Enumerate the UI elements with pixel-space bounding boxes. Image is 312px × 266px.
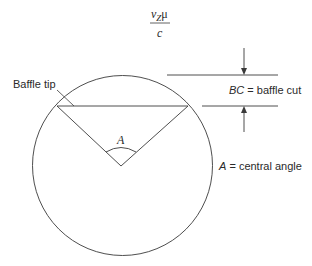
formula-numerator: vZμ (151, 7, 168, 23)
formula-denominator: c (157, 26, 163, 40)
baffle-tip-label: Baffle tip (13, 78, 56, 90)
baffle-cut-diagram: vZμ c A Baffle tip BC = baffle cut A = c… (0, 0, 312, 266)
radius-left (57, 106, 121, 166)
central-angle-label: A = central angle (218, 160, 302, 172)
angle-arc (106, 148, 136, 153)
radius-right (121, 106, 188, 166)
arrow-up-icon (241, 106, 247, 132)
baffle-cut-label: BC = baffle cut (229, 84, 301, 96)
angle-label: A (116, 133, 125, 147)
arrow-down-icon (241, 48, 247, 75)
shell-circle (33, 76, 213, 256)
formula: vZμ c (150, 7, 170, 40)
baffle-tip-leader (57, 90, 74, 106)
